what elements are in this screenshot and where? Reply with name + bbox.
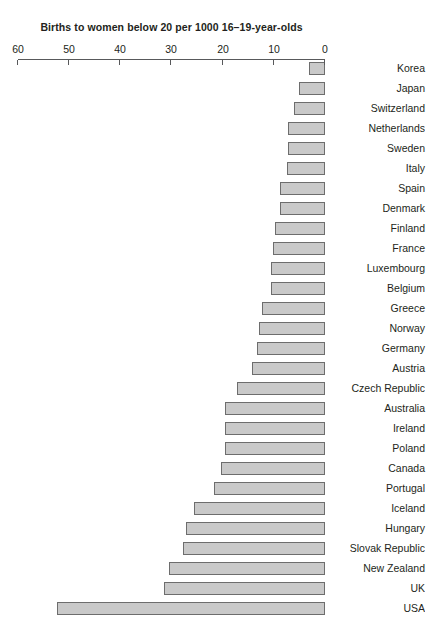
bar — [288, 142, 325, 155]
category-label: Slovak Republic — [330, 540, 425, 557]
x-axis-tick-label: 20 — [211, 43, 235, 55]
category-label: Australia — [330, 400, 425, 417]
bar-row: Canada — [0, 458, 428, 478]
category-label: Portugal — [330, 480, 425, 497]
bar-row: Greece — [0, 298, 428, 318]
bar — [299, 82, 325, 95]
bar-row: Korea — [0, 58, 428, 78]
bar-row: Denmark — [0, 198, 428, 218]
category-label: Greece — [330, 300, 425, 317]
category-label: Italy — [330, 160, 425, 177]
category-label: Korea — [330, 60, 425, 77]
category-label: Austria — [330, 360, 425, 377]
bar-row: Poland — [0, 438, 428, 458]
bar — [252, 362, 325, 375]
category-label: Spain — [330, 180, 425, 197]
bar — [280, 202, 325, 215]
bar — [287, 162, 325, 175]
bar — [271, 282, 325, 295]
bar-row: Austria — [0, 358, 428, 378]
category-label: UK — [330, 580, 425, 597]
category-label: Ireland — [330, 420, 425, 437]
x-axis-line — [18, 59, 325, 60]
bar-row: USA — [0, 598, 428, 618]
category-label: Denmark — [330, 200, 425, 217]
x-axis-tick-label: 40 — [108, 43, 132, 55]
bar — [57, 602, 325, 615]
bar-row: Czech Republic — [0, 378, 428, 398]
bar-row: Japan — [0, 78, 428, 98]
bar-row: Luxembourg — [0, 258, 428, 278]
bar-row: Netherlands — [0, 118, 428, 138]
bar — [169, 562, 325, 575]
x-axis-tick — [273, 60, 274, 65]
bar-row: Slovak Republic — [0, 538, 428, 558]
category-label: Sweden — [330, 140, 425, 157]
category-label: Norway — [330, 320, 425, 337]
x-axis-tick-label: 0 — [313, 43, 337, 55]
x-axis-title: Births to women below 20 per 1000 16–19-… — [18, 21, 325, 33]
x-axis-tick-label: 50 — [57, 43, 81, 55]
category-label: USA — [330, 600, 425, 617]
bar — [225, 422, 325, 435]
bar — [237, 382, 325, 395]
x-axis-tick-label: 10 — [262, 43, 286, 55]
category-label: Netherlands — [330, 120, 425, 137]
bar — [280, 182, 325, 195]
bar — [273, 242, 325, 255]
x-axis-tick-label: 60 — [6, 43, 30, 55]
bar-row: Germany — [0, 338, 428, 358]
bar — [294, 102, 325, 115]
bar — [257, 342, 325, 355]
x-axis-tick — [222, 60, 223, 65]
bar — [183, 542, 325, 555]
bar-row: Italy — [0, 158, 428, 178]
category-label: Luxembourg — [330, 260, 425, 277]
x-axis-tick — [171, 60, 172, 65]
x-axis-tick-label: 30 — [160, 43, 184, 55]
bar-row: Norway — [0, 318, 428, 338]
bar-row: Iceland — [0, 498, 428, 518]
x-axis-tick — [324, 60, 325, 65]
bar-row: New Zealand — [0, 558, 428, 578]
bar — [309, 62, 325, 75]
x-axis-tick — [17, 60, 18, 65]
bar — [164, 582, 325, 595]
x-axis-tick — [68, 60, 69, 65]
bar-row: Australia — [0, 398, 428, 418]
category-label: Iceland — [330, 500, 425, 517]
bar-row: Finland — [0, 218, 428, 238]
bar-row: UK — [0, 578, 428, 598]
bar — [221, 462, 325, 475]
category-label: Japan — [330, 80, 425, 97]
category-label: Germany — [330, 340, 425, 357]
category-label: Switzerland — [330, 100, 425, 117]
bar — [194, 502, 325, 515]
bar — [186, 522, 325, 535]
bar-row: Spain — [0, 178, 428, 198]
x-axis-tick — [119, 60, 120, 65]
category-label: Belgium — [330, 280, 425, 297]
bar — [288, 122, 325, 135]
category-label: Hungary — [330, 520, 425, 537]
bar-row: Portugal — [0, 478, 428, 498]
category-label: New Zealand — [330, 560, 425, 577]
bar-row: France — [0, 238, 428, 258]
bar-row: Hungary — [0, 518, 428, 538]
bar — [214, 482, 325, 495]
category-label: France — [330, 240, 425, 257]
bar-row: Sweden — [0, 138, 428, 158]
bar — [225, 442, 325, 455]
bar — [259, 322, 325, 335]
chart-figure: USAUKNew ZealandSlovak RepublicHungaryIc… — [0, 0, 428, 635]
bar — [275, 222, 325, 235]
bar — [271, 262, 325, 275]
category-label: Canada — [330, 460, 425, 477]
bar-row: Switzerland — [0, 98, 428, 118]
bar — [262, 302, 325, 315]
bar — [225, 402, 325, 415]
category-label: Czech Republic — [330, 380, 425, 397]
category-label: Finland — [330, 220, 425, 237]
plot-area: USAUKNew ZealandSlovak RepublicHungaryIc… — [0, 0, 428, 635]
bar-row: Belgium — [0, 278, 428, 298]
